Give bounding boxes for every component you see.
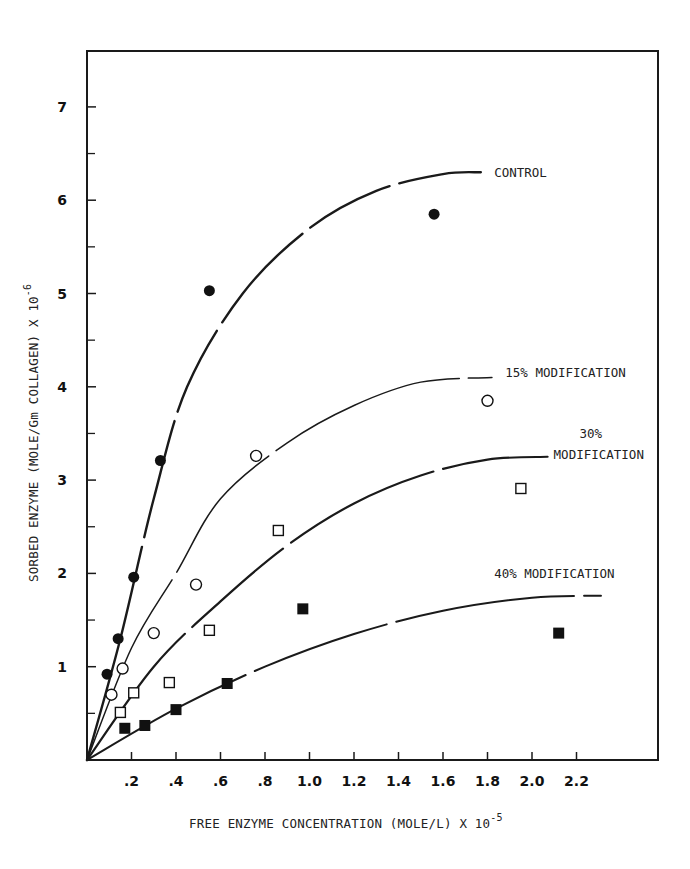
y-axis-exponent: -6 [22, 284, 33, 296]
fit-curve [87, 172, 481, 760]
x-tick-label: .4 [168, 773, 183, 789]
series-label: CONTROL [494, 165, 547, 180]
x-tick-label: 1.8 [475, 773, 500, 789]
filled-square-marker [119, 723, 130, 734]
y-tick-label: 7 [57, 99, 67, 115]
open-square-marker [516, 483, 526, 493]
y-tick-label: 3 [57, 472, 67, 488]
fit-curve [87, 457, 548, 760]
y-tick-label: 4 [57, 379, 67, 395]
filled-square-marker [222, 678, 233, 689]
open-square-marker [115, 707, 125, 717]
y-axis-ticks: 1234567 [57, 99, 96, 713]
filled-circle-marker [113, 633, 124, 644]
x-axis-ticks: .2.4.6.81.01.21.41.61.82.02.2 [124, 752, 589, 789]
open-square-marker [204, 625, 214, 635]
chart-canvas: 1234567 .2.4.6.81.01.21.41.61.82.02.2 CO… [0, 0, 690, 869]
y-tick-label: 6 [57, 192, 67, 208]
filled-circle-marker [128, 572, 139, 583]
filled-square-marker [553, 628, 564, 639]
filled-circle-marker [155, 455, 166, 466]
filled-circle-marker [102, 669, 113, 680]
y-tick-label: 1 [57, 659, 67, 675]
plot-frame [87, 51, 658, 760]
data-points [102, 209, 565, 734]
x-tick-label: .8 [257, 773, 272, 789]
fit-curve [87, 377, 492, 760]
x-tick-label: 2.2 [564, 773, 589, 789]
series-label: 15% MODIFICATION [505, 365, 625, 380]
filled-circle-marker [204, 285, 215, 296]
y-tick-label: 5 [57, 286, 67, 302]
x-tick-label: .6 [213, 773, 228, 789]
open-circle-marker [106, 689, 117, 700]
open-circle-marker [148, 628, 159, 639]
open-circle-marker [482, 395, 493, 406]
x-tick-label: 1.6 [431, 773, 456, 789]
x-tick-label: .2 [124, 773, 139, 789]
open-square-marker [273, 525, 283, 535]
x-axis-title: FREE ENZYME CONCENTRATION (MOLE/L) X 10-… [189, 812, 503, 831]
filled-square-marker [297, 603, 308, 614]
series-labels: CONTROL15% MODIFICATION30%MODIFICATION40… [494, 165, 644, 581]
series-label: MODIFICATION [554, 447, 644, 462]
y-axis-title: SORBED ENZYME (MOLE/Gm COLLAGEN) X 10-6 [22, 284, 41, 582]
fit-curves [87, 172, 601, 760]
x-axis-exponent: -5 [490, 812, 502, 823]
open-circle-marker [251, 450, 262, 461]
x-tick-label: 1.0 [297, 773, 322, 789]
filled-square-marker [139, 720, 150, 731]
x-tick-label: 2.0 [520, 773, 545, 789]
x-tick-label: 1.4 [386, 773, 411, 789]
open-circle-marker [191, 579, 202, 590]
filled-circle-marker [429, 209, 440, 220]
filled-square-marker [171, 704, 182, 715]
x-tick-label: 1.2 [342, 773, 367, 789]
open-square-marker [164, 678, 174, 688]
y-tick-label: 2 [57, 565, 67, 581]
series-label: 30% [579, 426, 602, 441]
open-circle-marker [117, 663, 128, 674]
open-square-marker [129, 688, 139, 698]
series-label: 40% MODIFICATION [494, 566, 614, 581]
